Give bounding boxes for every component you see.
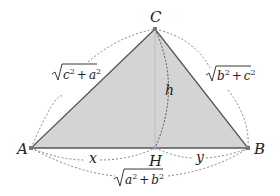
label-y: y <box>195 149 205 165</box>
svg-text:a2+b2: a2+b2 <box>125 172 164 187</box>
vertex-h-marker <box>154 147 157 150</box>
label-b: B <box>253 140 265 158</box>
label-ac-radical: c2+a2 <box>52 64 101 82</box>
triangle-abc <box>31 29 248 148</box>
label-a: A <box>15 140 28 158</box>
svg-text:b2+c2: b2+c2 <box>217 68 256 83</box>
arc-x-left <box>31 148 85 160</box>
arc-ab-right <box>168 148 248 176</box>
label-cb-radical: b2+c2 <box>206 66 256 83</box>
vertex-c-marker <box>153 27 157 31</box>
label-x: x <box>89 150 97 166</box>
vertex-a-marker <box>29 146 33 150</box>
label-ab-radical: a2+b2 <box>114 169 164 187</box>
label-h: H <box>148 152 163 170</box>
label-h-length: h <box>165 82 174 98</box>
arc-ab-left <box>31 148 115 176</box>
arc-x-right <box>100 148 155 160</box>
arc-y-right <box>206 148 248 158</box>
svg-text:c2+a2: c2+a2 <box>63 67 101 82</box>
triangle-diagram: A B C H x y h c2+a2 b2+c2 a2+b2 <box>0 0 280 196</box>
vertex-b-marker <box>246 146 250 150</box>
label-c: C <box>150 8 162 26</box>
